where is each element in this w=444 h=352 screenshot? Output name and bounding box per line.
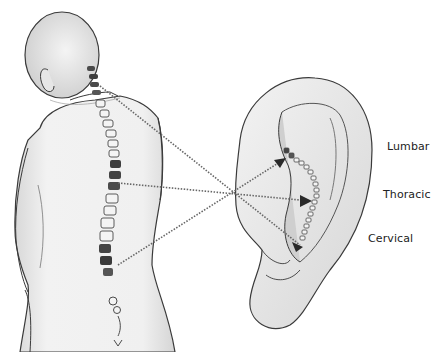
spine-ear-illustration xyxy=(0,0,444,352)
torso xyxy=(15,96,175,352)
label-cervical: Cervical xyxy=(368,232,413,245)
head xyxy=(25,12,99,98)
label-thoracic: Thoracic xyxy=(383,188,431,201)
label-lumbar: Lumbar xyxy=(387,140,429,153)
human-figure xyxy=(15,12,175,352)
